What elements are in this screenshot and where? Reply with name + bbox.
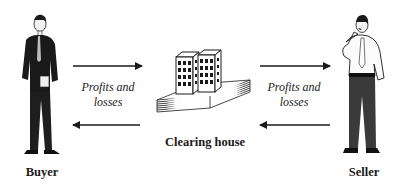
left-edge-label-line2: losses (74, 95, 142, 110)
left-edge-label-line1: Profits and (74, 80, 142, 95)
clearing-house-label: Clearing house (155, 135, 255, 150)
seller-label: Seller (342, 165, 386, 180)
right-edge-label: Profits and losses (260, 80, 328, 110)
buyer-figure-icon (22, 15, 60, 154)
seller-figure-icon (343, 15, 384, 153)
right-edge-label-line2: losses (260, 95, 328, 110)
right-edge-label-line1: Profits and (260, 80, 328, 95)
left-edge-label: Profits and losses (74, 80, 142, 110)
buyer-label: Buyer (20, 165, 64, 180)
clearing-house-icon (157, 50, 250, 112)
